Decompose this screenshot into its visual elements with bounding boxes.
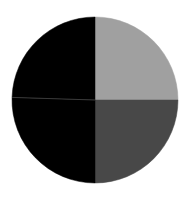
pie-chart xyxy=(0,0,195,197)
pie-slices xyxy=(12,17,178,183)
pie-slice xyxy=(95,17,178,100)
pie-slice xyxy=(12,97,95,183)
pie-slice xyxy=(12,17,95,100)
pie-slice xyxy=(95,100,178,183)
